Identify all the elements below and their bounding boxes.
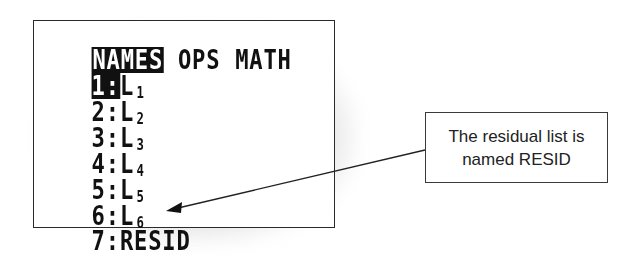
list-item-l2[interactable]: 2:L2 — [35, 73, 145, 99]
list-item-l5[interactable]: 5:L5 — [35, 151, 145, 177]
list-item-l3[interactable]: 3:L3 — [35, 99, 145, 125]
tab-math[interactable]: MATH — [234, 47, 292, 73]
list-item-resid[interactable]: 7:RESID — [35, 202, 191, 228]
annotation-callout: The residual list is named RESID — [425, 112, 608, 183]
item-number: 7: — [92, 228, 120, 254]
list-item-l1[interactable]: 1:L1 — [35, 47, 145, 73]
tab-ops[interactable]: OPS — [177, 47, 221, 73]
callout-line-2: named RESID — [426, 148, 607, 171]
list-item-l6[interactable]: 6:L6 — [35, 177, 145, 203]
item-name: RESID — [120, 225, 191, 256]
callout-line-1: The residual list is — [426, 125, 607, 148]
menu-tab-bar: NAMESOPSMATH — [35, 21, 293, 47]
list-item-l4[interactable]: 4:L4 — [35, 125, 145, 151]
calculator-list-menu-screen: NAMESOPSMATH 1:L1 2:L2 3:L3 4:L4 5:L5 6:… — [33, 20, 335, 228]
